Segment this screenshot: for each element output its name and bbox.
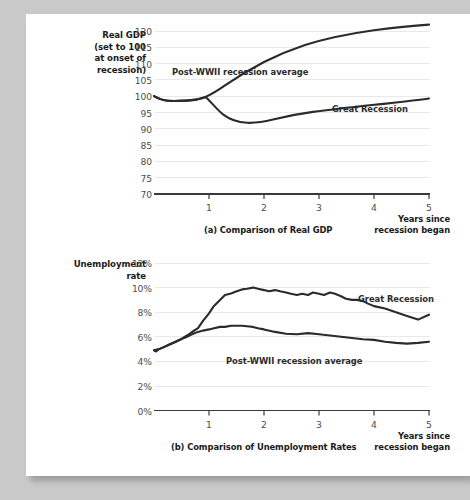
page-background: Real GDP (set to 100 at onset of recessi…	[0, 0, 470, 500]
chart-b-xtick-1: 1	[199, 419, 219, 430]
chart-b-caption: (b) Comparison of Unemployment Rates	[171, 442, 356, 452]
chart-a-label-great: Great Recession	[332, 104, 408, 114]
chart-real-gdp: Real GDP (set to 100 at onset of recessi…	[26, 14, 470, 244]
figure-card: Real GDP (set to 100 at onset of recessi…	[26, 14, 470, 476]
chart-a-xtick-3: 3	[309, 202, 329, 213]
chart-b-xtick-2: 2	[254, 419, 274, 430]
chart-a-xtick-2: 2	[254, 202, 274, 213]
chart-b-x-axis-title-line-2: recession began	[356, 442, 450, 453]
chart-a-xtick-4: 4	[364, 202, 384, 213]
chart-a-series-postwwii	[154, 25, 429, 101]
chart-b-label-great: Great Recession	[358, 294, 434, 304]
chart-a-xtick-5: 5	[419, 202, 439, 213]
chart-b-gridlines	[155, 263, 430, 386]
chart-b-label-postwwii: Post-WWII recession average	[226, 356, 362, 366]
chart-a-plot	[26, 14, 470, 244]
chart-b-xtick-4: 4	[364, 419, 384, 430]
chart-a-caption: (a) Comparison of Real GDP	[204, 225, 332, 235]
chart-b-xtick-5: 5	[419, 419, 439, 430]
chart-unemployment: Unemployment rate 12% 10% 8% 6% 4% 2% 0%	[26, 246, 470, 476]
chart-a-label-postwwii: Post-WWII recession average	[172, 67, 308, 77]
chart-a-xtick-1: 1	[199, 202, 219, 213]
chart-b-x-axis-title-line-1: Years since	[356, 431, 450, 442]
chart-a-x-axis-title-line-1: Years since	[356, 214, 450, 225]
chart-a-x-axis-title-line-2: recession began	[356, 225, 450, 236]
chart-a-x-axis-title: Years since recession began	[356, 214, 450, 237]
chart-b-x-axis-title: Years since recession began	[356, 431, 450, 454]
chart-b-xtick-3: 3	[309, 419, 329, 430]
